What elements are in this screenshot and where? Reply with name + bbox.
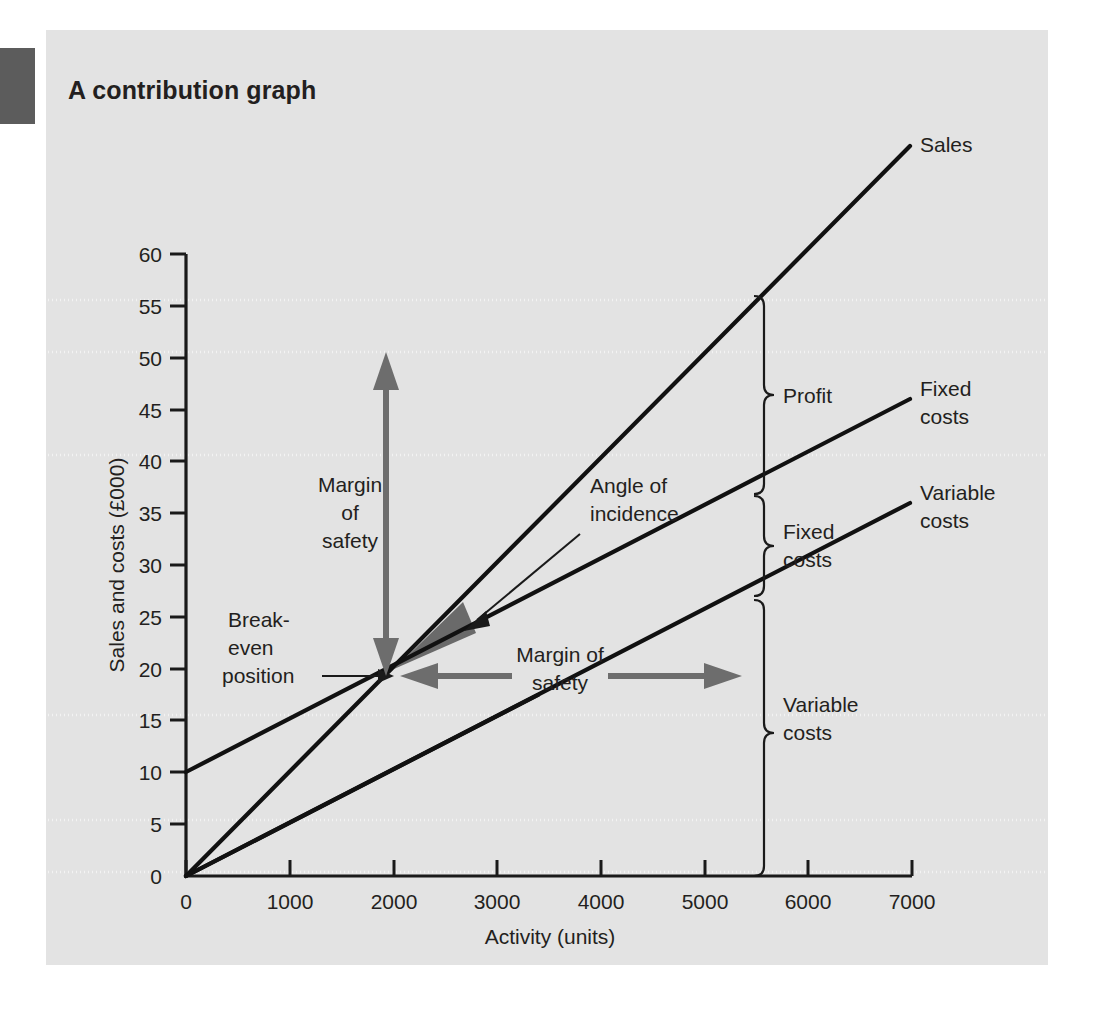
y-tick-55: 55 [139, 295, 162, 318]
y-tick-0: 0 [150, 865, 162, 888]
mos-horizontal-label-line1: Margin of [516, 643, 604, 666]
profit-bracket-label: Profit [783, 384, 832, 407]
margin-of-safety-horizontal: Margin of safety [400, 643, 742, 694]
x-axis-title: Activity (units) [485, 925, 616, 948]
y-tick-30: 30 [139, 554, 162, 577]
variable-costs-bracket [754, 600, 774, 876]
mos-vertical-label-line3: safety [322, 529, 379, 552]
x-tick-0: 0 [180, 890, 192, 913]
y-tick-50: 50 [139, 347, 162, 370]
page-canvas: A contribution graph [0, 0, 1096, 1009]
y-tick-20: 20 [139, 658, 162, 681]
x-tick-5000: 5000 [682, 890, 729, 913]
y-tick-15: 15 [139, 709, 162, 732]
x-tick-1000: 1000 [267, 890, 314, 913]
y-tick-35: 35 [139, 502, 162, 525]
break-even-label-line1: Break- [228, 608, 290, 631]
y-axis-ticks [170, 254, 186, 824]
x-tick-6000: 6000 [785, 890, 832, 913]
series-label-sales: Sales [920, 133, 973, 156]
y-axis-tick-labels: 60 55 50 45 40 35 30 25 20 15 10 5 0 [139, 243, 162, 888]
y-tick-45: 45 [139, 399, 162, 422]
mos-vertical-label-line1: Margin [318, 473, 382, 496]
contribution-graph: 60 55 50 45 40 35 30 25 20 15 10 5 0 0 1… [0, 0, 1096, 1009]
mos-horizontal-arrow-head-left [400, 663, 438, 689]
angle-of-incidence-annotation: Angle of incidence [464, 474, 679, 631]
series-label-fixed-costs-line1: Fixed [920, 377, 971, 400]
mos-vertical-arrow-head-up [373, 352, 399, 390]
fixed-costs-bracket-label-line1: Fixed [783, 520, 834, 543]
mos-horizontal-label-line2: safety [532, 671, 589, 694]
y-tick-5: 5 [150, 813, 162, 836]
x-axis-tick-labels: 0 1000 2000 3000 4000 5000 6000 7000 [180, 890, 935, 913]
break-even-annotation: Break- even position [222, 608, 394, 687]
x-axis-ticks [186, 860, 912, 876]
mos-vertical-arrow-head-down [373, 638, 399, 676]
variable-costs-bracket-label-line2: costs [783, 721, 832, 744]
series-line-sales [186, 146, 910, 876]
x-tick-2000: 2000 [371, 890, 418, 913]
mos-vertical-label-line2: of [341, 501, 359, 524]
break-even-label-line2: even [228, 636, 274, 659]
variable-costs-bracket-label-line1: Variable [783, 693, 859, 716]
value-brackets: Profit Fixed costs Variable costs [754, 296, 859, 876]
break-even-label-line3: position [222, 664, 294, 687]
y-tick-25: 25 [139, 606, 162, 629]
profit-bracket [754, 296, 774, 494]
series-label-fixed-costs-line2: costs [920, 405, 969, 428]
chart-series [186, 146, 910, 876]
x-tick-7000: 7000 [889, 890, 936, 913]
angle-of-incidence-label-line1: Angle of [590, 474, 667, 497]
series-labels: Sales Fixed costs Variable costs [920, 133, 996, 532]
y-tick-40: 40 [139, 450, 162, 473]
fixed-costs-bracket-label-line2: costs [783, 548, 832, 571]
mos-horizontal-arrow-head-right [704, 663, 742, 689]
x-tick-4000: 4000 [578, 890, 625, 913]
series-line-contribution [186, 695, 538, 876]
y-axis-title: Sales and costs (£000) [105, 458, 128, 673]
y-tick-60: 60 [139, 243, 162, 266]
y-tick-10: 10 [139, 761, 162, 784]
x-tick-3000: 3000 [474, 890, 521, 913]
series-label-variable-costs-line2: costs [920, 509, 969, 532]
series-label-variable-costs-line1: Variable [920, 481, 996, 504]
angle-of-incidence-label-line2: incidence [590, 502, 679, 525]
margin-of-safety-vertical: Margin of safety [318, 352, 399, 676]
